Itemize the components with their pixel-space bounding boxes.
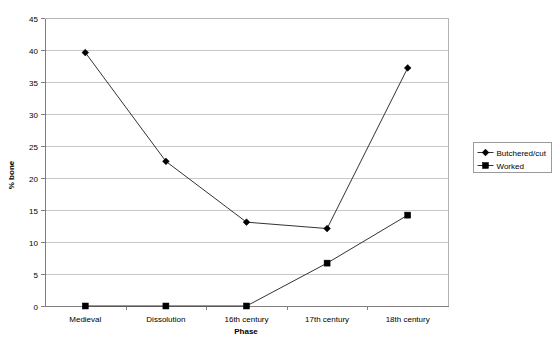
y-tick-label: 5 — [34, 271, 39, 280]
data-point-marker — [163, 303, 169, 309]
y-tick-label: 40 — [29, 47, 38, 56]
y-tick-label: 0 — [34, 303, 39, 312]
legend-marker — [483, 163, 489, 169]
data-point-marker — [405, 212, 411, 218]
x-axis-category-label: 17th century — [305, 315, 349, 324]
legend-label: Worked — [497, 162, 524, 171]
data-point-marker — [244, 303, 250, 309]
x-axis-category-label: 16th century — [224, 315, 268, 324]
y-axis-title: % bone — [7, 160, 16, 189]
y-tick-label: 35 — [29, 79, 38, 88]
data-point-marker — [82, 303, 88, 309]
data-point-marker — [324, 260, 330, 266]
y-tick-label: 30 — [29, 111, 38, 120]
y-tick-label: 25 — [29, 143, 38, 152]
line-chart: 051015202530354045 MedievalDissolution16… — [0, 0, 552, 342]
chart-container: 051015202530354045 MedievalDissolution16… — [0, 0, 552, 342]
x-axis-category-label: 18th century — [386, 315, 430, 324]
legend-label: Butchered/cut — [497, 149, 547, 158]
x-axis-category-label: Medieval — [69, 315, 101, 324]
y-tick-label: 45 — [29, 15, 38, 24]
y-tick-label: 20 — [29, 175, 38, 184]
x-axis-category-label: Dissolution — [146, 315, 185, 324]
y-tick-label: 15 — [29, 207, 38, 216]
x-axis-title: Phase — [234, 327, 258, 336]
chart-legend[interactable]: Butchered/cutWorked — [474, 143, 552, 173]
y-tick-label: 10 — [29, 239, 38, 248]
